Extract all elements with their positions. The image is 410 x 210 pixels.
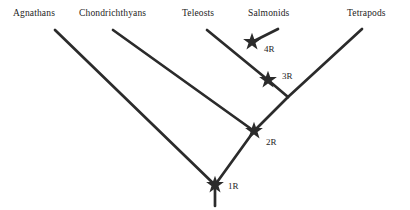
branch-2r-to-tetrapod-junction [254, 97, 288, 131]
event-label-3r: 3R [282, 72, 293, 81]
event-label-2r: 2R [266, 138, 277, 147]
taxon-label-salmonids: Salmonids [248, 9, 289, 19]
phylogenetic-tree-figure: Agnathans Chondrichthyans Teleosts Salmo… [0, 0, 410, 210]
tree-branches [55, 29, 362, 206]
taxon-label-teleosts: Teleosts [182, 9, 214, 19]
event-label-1r: 1R [228, 182, 239, 191]
branch-chondrichthyans [113, 30, 254, 131]
tree-diagram-svg [0, 0, 410, 210]
taxon-label-chondrichthyans: Chondrichthyans [79, 9, 146, 19]
star-marker-4r [243, 33, 261, 50]
event-label-4r: 4R [264, 45, 275, 54]
branch-tetrapods [288, 29, 362, 97]
branch-agnathans [55, 30, 215, 185]
taxon-label-tetrapods: Tetrapods [347, 9, 386, 19]
branch-root-to-2r [215, 131, 254, 185]
taxon-label-agnathans: Agnathans [13, 9, 55, 19]
